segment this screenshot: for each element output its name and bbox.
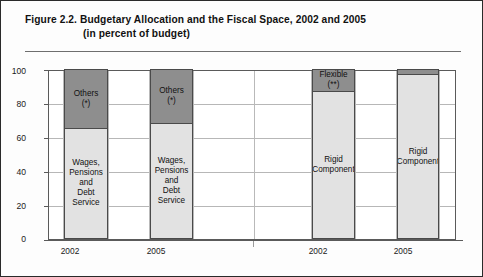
x-axis-line bbox=[48, 240, 463, 241]
y-tick-label-0: 0 bbox=[0, 234, 26, 244]
vertical-gridline-7 bbox=[355, 71, 356, 239]
x-label-allocation-2005: 2005 bbox=[134, 246, 178, 256]
bar-allocation-2002[interactable]: Others (*) Wages, Pensions and Debt Serv… bbox=[64, 69, 108, 239]
segment-rigid-component-2002[interactable]: Rigid Component bbox=[313, 92, 354, 238]
y-tick-label-60: 60 bbox=[0, 133, 26, 143]
y-tick-label-100: 100 bbox=[0, 66, 26, 76]
gridline-40 bbox=[49, 172, 455, 173]
figure-card: Figure 2.2. Budgetary Allocation and the… bbox=[0, 0, 483, 277]
segment-flexible-2002[interactable]: Flexible (**) bbox=[313, 70, 354, 92]
bar-allocation-2005[interactable]: Others (*) Wages, Pensions and Debt Serv… bbox=[150, 69, 193, 239]
x-label-allocation-2002: 2002 bbox=[48, 246, 92, 256]
chart-area: 100 80 60 40 20 0 bbox=[1, 1, 483, 277]
vertical-gridline-2 bbox=[108, 71, 109, 239]
y-tick-label-80: 80 bbox=[0, 99, 26, 109]
segment-label: Flexible (**) bbox=[318, 70, 348, 90]
gridline-60 bbox=[49, 138, 455, 139]
gridline-20 bbox=[49, 206, 455, 207]
segment-label: Wages, Pensions and Debt Service bbox=[65, 158, 107, 208]
plot-region: Others (*) Wages, Pensions and Debt Serv… bbox=[48, 70, 456, 240]
vertical-gridline-9 bbox=[439, 71, 440, 239]
segment-label: Rigid Component bbox=[313, 155, 354, 175]
segment-label: Rigid Component bbox=[398, 147, 438, 167]
segment-label: Others (*) bbox=[73, 89, 100, 109]
segment-label: Others (*) bbox=[158, 86, 185, 106]
segment-label: Wages, Pensions and Debt Service bbox=[151, 156, 192, 206]
x-label-fiscal-space-2002: 2002 bbox=[296, 246, 340, 256]
segment-others-2002[interactable]: Others (*) bbox=[65, 70, 107, 129]
bar-fiscal-space-2002[interactable]: Flexible (**) Rigid Component bbox=[312, 69, 355, 239]
segment-wages-pensions-debt-2002[interactable]: Wages, Pensions and Debt Service bbox=[65, 129, 107, 238]
x-axis-mid-tick bbox=[253, 241, 254, 247]
segment-others-2005[interactable]: Others (*) bbox=[151, 70, 192, 124]
vertical-gridline-4 bbox=[193, 71, 194, 239]
gridline-80 bbox=[49, 104, 455, 105]
segment-rigid-component-2005[interactable]: Rigid Component bbox=[398, 75, 438, 238]
bar-fiscal-space-2005[interactable]: Rigid Component bbox=[397, 69, 439, 239]
x-label-fiscal-space-2005: 2005 bbox=[381, 246, 425, 256]
y-tick-label-40: 40 bbox=[0, 167, 26, 177]
y-tick-label-20: 20 bbox=[0, 201, 26, 211]
segment-wages-pensions-debt-2005[interactable]: Wages, Pensions and Debt Service bbox=[151, 124, 192, 238]
vertical-gridline-5 bbox=[254, 71, 255, 239]
